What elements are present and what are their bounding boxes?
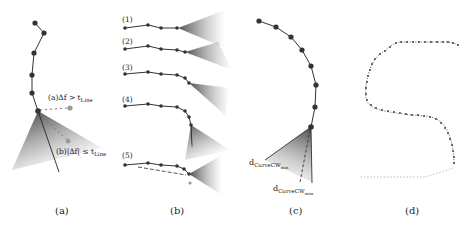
dotted-line-a — [40, 108, 68, 110]
step-5: (5) — [122, 151, 222, 195]
candidate-point-b — [66, 139, 71, 144]
stroke-nodes — [29, 20, 46, 113]
stroke-path — [32, 23, 44, 111]
panel-d: (d) — [360, 41, 459, 216]
s-curve-predicted-tail — [360, 168, 453, 177]
search-cone — [12, 111, 102, 170]
s-curve-nodes — [365, 41, 459, 164]
annotation-above: (a)Δf > tLine — [48, 93, 93, 103]
caption-b: (b) — [170, 205, 184, 216]
search-cone — [189, 155, 222, 195]
stroke-path — [259, 21, 316, 127]
label-d-max: dCurveCWmax — [273, 184, 314, 196]
s-curve-path — [366, 42, 458, 165]
candidate-point-a — [67, 105, 72, 110]
step-label-3: (3) — [122, 63, 133, 72]
panel-b: (1) (2) (3) (4) (5) — [122, 10, 232, 216]
step-label-1: (1) — [122, 15, 133, 24]
caption-d: (d) — [405, 205, 419, 216]
panel-c: dCurveCWmin dCurveCWmax (c) — [249, 18, 319, 216]
search-cone — [189, 83, 230, 115]
caption-a: (a) — [55, 205, 69, 216]
panel-a: (a)Δf > tLine (b)|Δf| ≤ tLine (a) — [12, 20, 106, 216]
step-label-2: (2) — [122, 37, 133, 46]
figure: (a)Δf > tLine (b)|Δf| ≤ tLine (a) (1) (2… — [0, 0, 472, 228]
step-label-5: (5) — [122, 151, 133, 160]
caption-c: (c) — [289, 205, 303, 216]
step-1: (1) — [122, 10, 225, 48]
step-label-4: (4) — [122, 95, 133, 104]
